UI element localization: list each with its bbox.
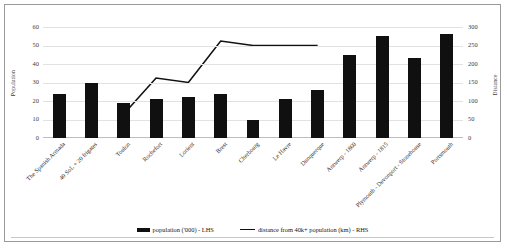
x-axis-tick-label: Portsmouth [430, 141, 455, 166]
legend-item-distance: distance from 40k+ population (km) - RHS [240, 226, 368, 233]
legend-label-population: population ('000) - LHS [153, 226, 214, 233]
y-axis-left-tick: 50 [33, 42, 39, 48]
x-axis-tick-label: Dunquerque [299, 141, 325, 167]
y-axis-right-tick: 0 [468, 135, 471, 141]
y-axis-right-tick: 300 [468, 24, 478, 30]
x-axis-tick-label: Lorient [178, 141, 195, 158]
y-axis-right-title: Distance [492, 74, 498, 95]
gridline [43, 83, 463, 84]
bar-swatch-icon [137, 228, 150, 232]
legend-divider [11, 237, 494, 238]
x-axis-tick-label: Antwerp - 1860 [325, 141, 357, 173]
x-axis-tick-label: Toulon [114, 141, 131, 158]
bar [150, 99, 163, 138]
chart-frame: 0102030405060050100150200250300Populatio… [4, 4, 501, 242]
bar [182, 97, 195, 138]
bar [279, 99, 292, 138]
y-axis-right-tick: 200 [468, 61, 478, 67]
y-axis-right-tick: 100 [468, 98, 478, 104]
x-axis-tick-label: Brest [214, 141, 228, 155]
chart-legend: population ('000) - LHS distance from 40… [5, 226, 500, 233]
legend-label-distance: distance from 40k+ population (km) - RHS [258, 226, 368, 233]
y-axis-left-tick: 20 [33, 98, 39, 104]
legend-item-population: population ('000) - LHS [137, 226, 214, 233]
x-axis-tick-label: Le Havre [272, 141, 293, 162]
plot-area: 0102030405060050100150200250300Populatio… [43, 27, 463, 138]
bar [408, 58, 421, 138]
line-swatch-icon [240, 229, 255, 230]
y-axis-left-tick: 60 [33, 24, 39, 30]
bar [117, 103, 130, 138]
bar [247, 120, 260, 139]
y-axis-left-tick: 0 [36, 135, 39, 141]
y-axis-right-tick: 50 [468, 116, 474, 122]
y-axis-right-tick: 150 [468, 79, 478, 85]
bar [311, 90, 324, 138]
gridline [43, 101, 463, 102]
y-axis-left-tick: 10 [33, 116, 39, 122]
x-axis-tick-label: Plymouth - Devonport - Stonehouse [354, 141, 422, 209]
bar [343, 55, 356, 138]
bar [53, 94, 66, 138]
y-axis-right-tick: 250 [468, 42, 478, 48]
bar [376, 36, 389, 138]
y-axis-left-title: Population [10, 69, 16, 95]
y-axis-left-tick: 30 [33, 79, 39, 85]
x-axis-tick-label: Antwerp - 1815 [358, 141, 390, 173]
bar [440, 34, 453, 138]
x-axis-tick-label: Cherbourg [237, 141, 260, 164]
gridline [43, 27, 463, 28]
gridline [43, 46, 463, 47]
bar [214, 94, 227, 138]
gridline [43, 64, 463, 65]
x-axis-tick-label: Rochefort [142, 141, 164, 163]
y-axis-left-tick: 40 [33, 61, 39, 67]
bar [85, 83, 98, 139]
